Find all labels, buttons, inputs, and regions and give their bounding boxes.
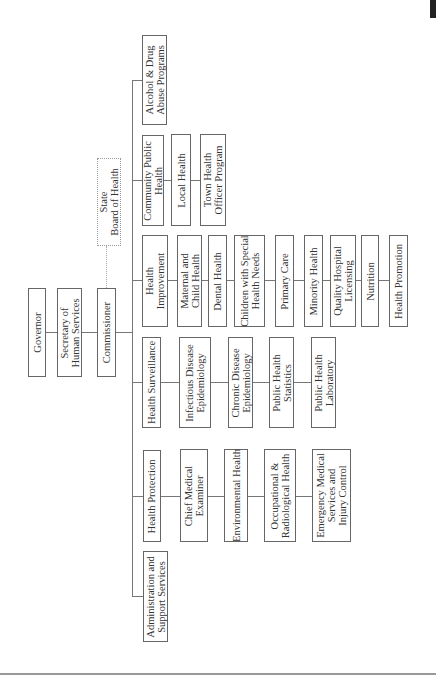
branch-health-surveillance (132, 382, 142, 383)
branch-health-improvement (132, 280, 142, 281)
unit-label: Dental Health (212, 252, 223, 311)
unit-town-health-officer: Town Health Officer Program (200, 134, 226, 226)
unit-occupational-radiological-health: Occupational & Radiological Health (264, 449, 296, 542)
division-label: Alcohol & Drug Abuse Programs (144, 45, 166, 115)
unit-local-health: Local Health (171, 134, 191, 226)
unit-chronic-disease-epidemiology: Chronic Disease Epidemiology (228, 337, 253, 428)
governor-box: Governor (28, 288, 46, 377)
unit-label: Local Health (176, 153, 187, 208)
unit-label: Town Health Officer Program (202, 146, 224, 215)
governor-label: Governor (32, 312, 43, 352)
connector-governor-secretary (46, 332, 57, 333)
unit-emergency-medical-services: Emergency Medical Services and Injury Co… (312, 449, 351, 542)
secretary-label: Secretary of Human Services (59, 298, 81, 367)
division-label: Health Protection (147, 459, 158, 533)
unit-label: Maternal and Child Health (179, 253, 201, 309)
branch-health-protection (132, 496, 143, 497)
connector-board-commissioner (106, 246, 107, 288)
unit-children-special-needs: Children with Special Health Needs (234, 235, 265, 327)
division-community-public-health: Community Public Health (142, 135, 164, 226)
unit-label: Public Health Laboratory (313, 354, 335, 411)
connector-secretary-commissioner (82, 332, 97, 333)
unit-public-health-laboratory: Public Health Laboratory (311, 337, 336, 428)
secretary-box: Secretary of Human Services (57, 288, 82, 377)
unit-label: Chronic Disease Epidemiology (230, 348, 252, 417)
division-health-improvement: Health Improvement (142, 235, 168, 327)
unit-label: Nutrition (365, 262, 376, 301)
unit-primary-care: Primary Care (275, 235, 294, 327)
unit-chief-medical-examiner: Chief Medical Examiner (180, 449, 208, 542)
unit-label: Minority Health (308, 247, 319, 315)
division-label: Administration and Support Services (145, 556, 167, 637)
division-administration-support: Administration and Support Services (143, 551, 168, 642)
unit-health-promotion: Health Promotion (389, 235, 408, 327)
unit-label: Primary Care (279, 253, 290, 309)
division-label: Community Public Health (142, 141, 164, 221)
connector-commissioner-trunk (116, 332, 132, 333)
commissioner-label: Commissioner (101, 302, 112, 363)
division-trunk-line (132, 80, 133, 597)
state-board-box: State Board of Health (97, 158, 121, 246)
unit-label: Occupational & Radiological Health (269, 453, 291, 537)
branch-administration (132, 596, 143, 597)
unit-maternal-child-health: Maternal and Child Health (177, 235, 202, 327)
division-alcohol-drug: Alcohol & Drug Abuse Programs (142, 35, 167, 125)
unit-quality-hospital-licensing: Quality Hospital Licensing (330, 235, 356, 327)
unit-label: Health Promotion (393, 244, 404, 319)
unit-label: Public Health Statistics (271, 354, 293, 411)
commissioner-box: Commissioner (97, 288, 116, 377)
unit-label: Emergency Medical Services and Injury Co… (315, 453, 348, 538)
unit-label: Environmental Health (231, 449, 242, 542)
unit-infectious-disease-epidemiology: Infectious Disease Epidemiology (179, 337, 211, 428)
unit-nutrition: Nutrition (361, 235, 379, 327)
division-health-surveillance: Health Surveillance (142, 337, 161, 428)
unit-minority-health: Minority Health (304, 235, 323, 327)
unit-label: Infectious Disease Epidemiology (184, 344, 206, 421)
unit-label: Chief Medical Examiner (183, 465, 205, 525)
unit-public-health-statistics: Public Health Statistics (269, 337, 294, 428)
unit-dental-health: Dental Health (208, 235, 227, 327)
unit-environmental-health: Environmental Health (224, 449, 248, 542)
division-label: Health Surveillance (146, 341, 157, 424)
unit-label: Quality Hospital Licensing (332, 246, 354, 316)
branch-alcohol (132, 80, 142, 81)
page-bottom-rule (0, 673, 436, 675)
unit-label: Children with Special Health Needs (239, 235, 261, 327)
division-label: Health Improvement (144, 253, 166, 310)
branch-community (132, 180, 142, 181)
page-corner-mark (430, 0, 436, 18)
division-health-protection: Health Protection (143, 450, 161, 542)
state-board-label: State Board of Health (98, 168, 120, 236)
